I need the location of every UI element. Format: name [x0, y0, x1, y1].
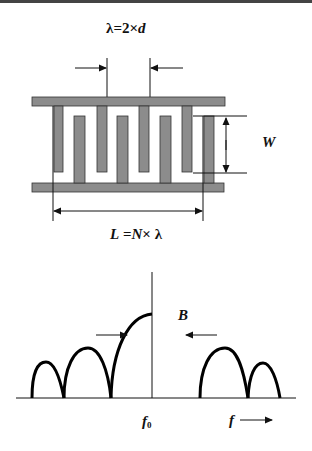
right-side-lobe-1	[200, 348, 248, 398]
finger-bottom-1	[74, 116, 85, 183]
width-dimension	[193, 116, 247, 173]
diagram-svg: λ=2×d W L =N× λ	[0, 0, 312, 451]
top-busbar	[32, 97, 225, 106]
left-side-lobe-2	[32, 362, 64, 398]
frequency-response-curve	[32, 314, 280, 398]
finger-top-4	[182, 106, 192, 172]
center-frequency-label: f0	[142, 413, 152, 430]
finger-bottom-2	[117, 116, 128, 183]
finger-bottom-3	[160, 116, 171, 183]
bandwidth-label: B	[177, 307, 188, 323]
top-border	[0, 0, 312, 3]
saw-idt-diagram: λ=2×d W L =N× λ	[0, 0, 312, 451]
finger-top-3	[139, 106, 149, 172]
right-side-lobe-2	[248, 363, 280, 398]
width-label: W	[262, 134, 277, 150]
bottom-busbar	[32, 183, 224, 192]
finger-top-1	[54, 106, 63, 172]
idt-electrodes	[32, 97, 225, 192]
finger-top-2	[97, 106, 107, 172]
frequency-axis-label: f	[229, 412, 236, 428]
length-label: L =N× λ	[109, 226, 163, 242]
left-side-lobe-1	[64, 348, 111, 398]
main-lobe	[111, 314, 152, 398]
wavelength-label: λ=2×d	[106, 20, 146, 36]
